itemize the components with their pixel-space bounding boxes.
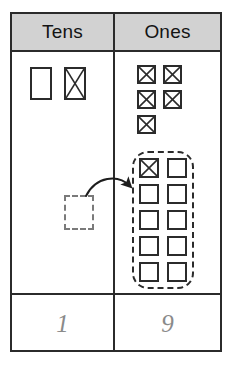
cross-out-icon: [165, 92, 180, 107]
ones-unit-5: [137, 115, 156, 134]
grouped-unit-7: [139, 236, 159, 256]
ones-unit-4: [163, 90, 182, 109]
grouped-unit-2: [167, 158, 187, 178]
grouped-unit-6: [167, 210, 187, 230]
tens-rod-placeholder: [64, 195, 94, 230]
ones-unit-1: [137, 65, 156, 84]
grouped-unit-9: [139, 262, 159, 282]
grouped-unit-3: [139, 184, 159, 204]
answer-tens[interactable]: 1: [12, 295, 113, 352]
place-value-table: Tens Ones: [10, 12, 222, 352]
cross-out-icon: [139, 67, 154, 82]
grouped-unit-8: [167, 236, 187, 256]
ones-unit-3: [137, 90, 156, 109]
grouped-unit-5: [139, 210, 159, 230]
grouped-unit-10: [167, 262, 187, 282]
table-header-row: Tens Ones: [12, 14, 220, 52]
ones-unit-2: [163, 65, 182, 84]
tens-rod-1: [30, 67, 52, 100]
cross-out-icon: [165, 67, 180, 82]
answer-ones[interactable]: 9: [115, 295, 220, 352]
grouped-unit-1: [139, 158, 159, 178]
grouped-unit-4: [167, 184, 187, 204]
cross-out-icon: [139, 92, 154, 107]
worksheet-canvas: Tens Ones: [0, 0, 233, 365]
cross-out-icon: [141, 160, 157, 176]
cross-out-icon: [66, 69, 84, 98]
tens-rod-2: [64, 67, 86, 100]
column-header-tens: Tens: [12, 14, 113, 50]
cross-out-icon: [139, 117, 154, 132]
column-header-ones: Ones: [115, 14, 220, 50]
